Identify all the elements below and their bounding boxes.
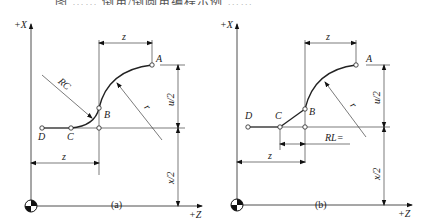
- axis-x-label: +X: [220, 19, 234, 30]
- diagram-b: [231, 24, 412, 211]
- point-c: [69, 126, 73, 130]
- dim-x-half: x/2: [371, 168, 382, 181]
- axis-z-label: +Z: [398, 208, 411, 219]
- diagram-b-labels: +X +Z A B C D r z RL= z u/2 x/2 (b): [220, 19, 411, 219]
- point-a: [150, 63, 154, 67]
- label-b: B: [309, 106, 315, 117]
- label-r: r: [348, 100, 359, 110]
- diagram-canvas: +X +Z A B C D RC r z z u/2 x/2 (a): [0, 0, 424, 220]
- axis-x-label: +X: [14, 19, 28, 30]
- point-b: [303, 107, 307, 111]
- dim-u-half: u/2: [165, 93, 176, 106]
- dim-top-z: z: [325, 31, 330, 42]
- caption-a: (a): [111, 199, 122, 211]
- caption-b: (b): [315, 199, 327, 211]
- label-c: C: [67, 131, 74, 142]
- label-b: B: [104, 109, 110, 120]
- axis-z-label: +Z: [189, 209, 202, 220]
- dim-x-half: x/2: [165, 172, 176, 185]
- origin-symbol-icon: [25, 200, 37, 212]
- dim-bottom-z: z: [267, 150, 272, 161]
- label-a: A: [365, 53, 373, 64]
- dim-top-z: z: [121, 31, 126, 42]
- label-rl: RL=: [324, 132, 343, 143]
- label-rc: RC: [55, 75, 73, 92]
- point-c: [278, 125, 282, 129]
- origin-symbol-icon: [231, 199, 243, 211]
- corner-chamfer-rl: [280, 109, 305, 127]
- label-a: A: [155, 53, 163, 64]
- label-r: r: [142, 102, 153, 112]
- label-d: D: [244, 110, 253, 121]
- point-d: [40, 126, 44, 130]
- dim-u-half: u/2: [371, 91, 382, 104]
- point-d: [246, 125, 250, 129]
- point-b: [97, 106, 101, 110]
- point-a: [354, 63, 358, 67]
- diagram-a-labels: +X +Z A B C D RC r z z u/2 x/2 (a): [14, 19, 202, 220]
- dim-bottom-z: z: [61, 151, 66, 162]
- label-c: C: [275, 110, 282, 121]
- corner-fillet-rc: [71, 108, 99, 128]
- label-d: D: [37, 131, 46, 142]
- arc-b-a: [305, 65, 356, 109]
- arc-b-a: [99, 65, 152, 108]
